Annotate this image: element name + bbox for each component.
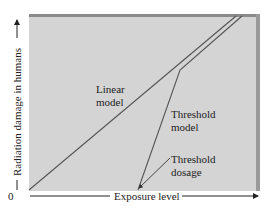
radiation-model-diagram: Linear model Threshold model Threshold d… bbox=[0, 0, 280, 214]
y-axis-label: Radiation damage in humans bbox=[11, 48, 23, 176]
plot-area bbox=[29, 14, 260, 191]
plot-right-border bbox=[256, 14, 260, 191]
x-axis-label: Exposure level bbox=[114, 190, 180, 202]
plot-top-border bbox=[29, 14, 259, 17]
threshold-dosage-label-1: Threshold bbox=[171, 153, 216, 165]
linear-model-label-2: model bbox=[96, 96, 124, 108]
threshold-dosage-label-2: dosage bbox=[171, 166, 202, 178]
threshold-model-label-1: Threshold bbox=[171, 108, 216, 120]
threshold-model-label-2: model bbox=[171, 121, 199, 133]
origin-label: 0 bbox=[8, 190, 14, 202]
linear-model-label-1: Linear bbox=[96, 83, 125, 95]
